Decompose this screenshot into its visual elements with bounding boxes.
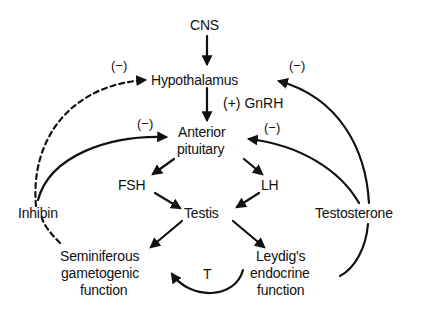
arrow-leydig-testosterone: [340, 224, 368, 276]
node-hypothalamus: Hypothalamus: [151, 72, 238, 88]
diagram-canvas: CNS Hypothalamus (+) GnRH Anterior pitui…: [0, 0, 429, 320]
node-seminiferous-line1: Seminiferous: [60, 248, 139, 264]
node-anterior-pituitary-line1: Anterior: [178, 124, 225, 140]
label-inhibin-hypothalamus-negative: (−): [111, 59, 127, 73]
arrow-pituitary-fsh: [153, 159, 174, 174]
arrow-fsh-testis: [155, 193, 180, 208]
node-inhibin: Inhibin: [18, 205, 58, 221]
arrow-testis-seminiferous: [151, 221, 182, 247]
node-testis: Testis: [184, 205, 219, 221]
arrow-testosterone-pituitary: [249, 139, 359, 203]
node-leydig-line1: Leydig's: [256, 248, 305, 264]
label-inhibin-pituitary-negative: (−): [137, 117, 153, 131]
label-t: T: [203, 266, 211, 282]
label-testosterone-pituitary-negative: (−): [264, 121, 280, 135]
dashed-seminiferous-inhibin: [42, 218, 60, 243]
node-leydig-line2: endocrine: [250, 265, 310, 281]
node-anterior-pituitary-line2: pituitary: [177, 141, 224, 157]
label-testosterone-hypothalamus-negative: (−): [289, 59, 305, 73]
node-seminiferous-line3: function: [80, 282, 127, 298]
label-gnrh: (+) GnRH: [223, 96, 283, 110]
arrow-lh-testis: [237, 193, 259, 207]
node-lh: LH: [261, 177, 279, 193]
node-leydig-line3: function: [257, 282, 304, 298]
node-cns: CNS: [190, 17, 219, 33]
node-seminiferous-line2: gametogenic: [61, 265, 139, 281]
arrow-pituitary-lh: [244, 159, 262, 174]
arrow-testis-leydig: [233, 221, 264, 247]
arrow-testosterone-hypothalamus: [279, 81, 369, 203]
node-fsh: FSH: [118, 177, 145, 193]
node-testosterone: Testosterone: [315, 205, 393, 221]
arrow-inhibin-pituitary: [38, 137, 166, 200]
